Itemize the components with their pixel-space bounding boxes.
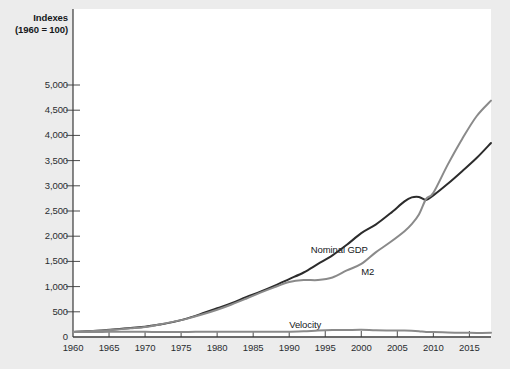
series-line-m2 [73, 101, 491, 332]
tick-marks [66, 85, 469, 337]
axis-lines [73, 9, 491, 337]
series-lines [73, 101, 491, 333]
chart-canvas [0, 0, 510, 369]
series-line-nominal-gdp [73, 143, 491, 332]
chart-root: Indexes (1960 = 100) 5,0004,5004,0003,50… [0, 0, 510, 369]
series-line-velocity [73, 330, 491, 333]
